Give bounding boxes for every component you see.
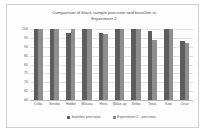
bar-group <box>63 29 79 100</box>
legend-swatch-icon <box>67 116 70 119</box>
chart-container: Comparison of black sample precision and… <box>6 4 199 128</box>
x-axis-tick-label: Kiwi <box>160 102 176 111</box>
y-axis-tick-label: 70 <box>24 80 28 84</box>
x-axis: CribaSendaiHobbitMikasaHeroWake-upShibaT… <box>30 102 193 111</box>
bar[interactable] <box>185 43 190 100</box>
bar-group <box>79 29 95 100</box>
chart-title-line-2: Experiment 2 <box>25 16 183 22</box>
chart-legend: baseline precisionExperiment 2 - precisi… <box>30 115 193 119</box>
bar[interactable] <box>54 29 59 100</box>
x-axis-tick-label: Tesla <box>144 102 160 111</box>
bar[interactable] <box>103 34 108 100</box>
x-axis-tick-label: Sendai <box>46 102 62 111</box>
x-axis-tick-label: Wake-up <box>111 102 127 111</box>
y-axis-tick-label: 90 <box>24 45 28 49</box>
y-axis-tick-label: 65 <box>24 89 28 93</box>
legend-label: baseline precision <box>72 115 101 119</box>
y-axis-tick-label: 95 <box>24 36 28 40</box>
gridline <box>30 100 193 101</box>
bars-layer <box>30 29 193 100</box>
y-axis-tick-label: 75 <box>24 71 28 75</box>
legend-swatch-icon <box>113 116 116 119</box>
bar-group <box>95 29 111 100</box>
bar-group <box>177 29 193 100</box>
bar-group <box>46 29 62 100</box>
bar-group <box>111 29 127 100</box>
x-axis-tick-label: Hero <box>95 102 111 111</box>
x-axis-tick-label: Mikasa <box>79 102 95 111</box>
bar[interactable] <box>120 29 125 100</box>
bar-group <box>128 29 144 100</box>
bar[interactable] <box>71 29 76 100</box>
bar-group <box>30 29 46 100</box>
x-axis-tick-label: Hobbit <box>63 102 79 111</box>
y-axis-tick-label: 80 <box>24 63 28 67</box>
bar[interactable] <box>38 29 43 100</box>
bar[interactable] <box>136 29 141 100</box>
bar-group <box>144 29 160 100</box>
x-axis-tick-label: Zeus <box>177 102 193 111</box>
x-axis-tick-label: Criba <box>30 102 46 111</box>
legend-label: Experiment 2 - precision <box>117 115 156 119</box>
bar[interactable] <box>169 29 174 100</box>
y-axis-tick-label: 100 <box>22 27 28 31</box>
bar-group <box>160 29 176 100</box>
bar[interactable] <box>87 29 92 100</box>
legend-item[interactable]: baseline precision <box>67 115 100 119</box>
bar[interactable] <box>152 40 157 100</box>
y-axis-tick-label: 60 <box>24 98 28 102</box>
y-axis-tick-label: 85 <box>24 54 28 58</box>
y-axis: 1009590858075706560 <box>13 29 28 100</box>
plot-area <box>30 29 193 100</box>
chart-title: Comparison of black sample precision and… <box>25 10 183 22</box>
x-axis-tick-label: Shiba <box>128 102 144 111</box>
legend-item[interactable]: Experiment 2 - precision <box>113 115 156 119</box>
